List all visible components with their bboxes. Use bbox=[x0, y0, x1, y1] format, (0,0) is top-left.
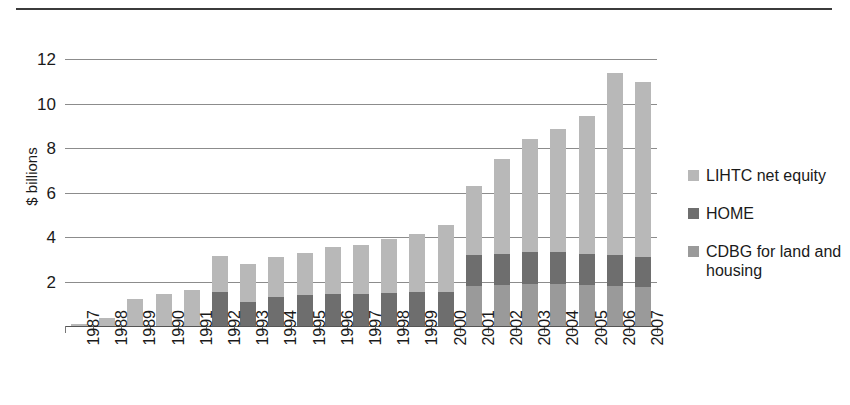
legend-label: LIHTC net equity bbox=[706, 166, 826, 185]
y-tick-label-12: 12 bbox=[16, 51, 56, 68]
top-divider-rule bbox=[16, 8, 832, 10]
bar-segment-lihtc-2005[interactable] bbox=[579, 116, 595, 254]
bar-segment-lihtc-1995[interactable] bbox=[297, 253, 313, 295]
bar-segment-lihtc-1996[interactable] bbox=[325, 247, 341, 294]
bar-segment-home-2001[interactable] bbox=[466, 255, 482, 286]
legend-swatch-icon bbox=[688, 246, 699, 257]
legend-label: CDBG for land and housing bbox=[706, 242, 844, 280]
bar-1990[interactable] bbox=[156, 46, 172, 326]
x-tick-label-1999: 1999 bbox=[424, 310, 440, 380]
chart-legend: LIHTC net equityHOMECDBG for land and ho… bbox=[688, 166, 848, 299]
x-tick-label-1990: 1990 bbox=[171, 310, 187, 380]
x-tick-label-1992: 1992 bbox=[227, 310, 243, 380]
x-tick-label-1993: 1993 bbox=[255, 310, 271, 380]
x-tick-label-1996: 1996 bbox=[340, 310, 356, 380]
legend-swatch-icon bbox=[688, 170, 699, 181]
bar-segment-lihtc-2007[interactable] bbox=[635, 82, 651, 258]
x-tick-label-2004: 2004 bbox=[565, 310, 581, 380]
x-tick-label-2003: 2003 bbox=[537, 310, 553, 380]
bar-1999[interactable] bbox=[409, 46, 425, 326]
legend-swatch-icon bbox=[688, 208, 699, 219]
bar-1997[interactable] bbox=[353, 46, 369, 326]
legend-label: HOME bbox=[706, 204, 754, 223]
x-tick-label-1994: 1994 bbox=[283, 310, 299, 380]
y-tick-label-10: 10 bbox=[16, 96, 56, 113]
bar-1992[interactable] bbox=[212, 46, 228, 326]
bar-segment-home-2007[interactable] bbox=[635, 257, 651, 287]
bar-segment-lihtc-1998[interactable] bbox=[381, 239, 397, 292]
legend-item-2[interactable]: CDBG for land and housing bbox=[688, 242, 848, 280]
x-tick-label-1989: 1989 bbox=[142, 310, 158, 380]
bar-2000[interactable] bbox=[438, 46, 454, 326]
bar-1988[interactable] bbox=[99, 46, 115, 326]
bar-segment-home-2006[interactable] bbox=[607, 255, 623, 286]
bar-segment-lihtc-2002[interactable] bbox=[494, 159, 510, 253]
x-tick-label-1997: 1997 bbox=[368, 310, 384, 380]
bar-segment-lihtc-2003[interactable] bbox=[522, 139, 538, 251]
legend-item-0[interactable]: LIHTC net equity bbox=[688, 166, 848, 185]
bar-1989[interactable] bbox=[127, 46, 143, 326]
y-axis-tick-labels: 24681012 bbox=[8, 46, 56, 326]
x-tick-label-2000: 2000 bbox=[453, 310, 469, 380]
bar-2004[interactable] bbox=[550, 46, 566, 326]
y-tick-label-2: 2 bbox=[16, 274, 56, 291]
bar-segment-lihtc-1992[interactable] bbox=[212, 256, 228, 292]
bar-1993[interactable] bbox=[240, 46, 256, 326]
bar-segment-home-2004[interactable] bbox=[550, 252, 566, 284]
bar-1996[interactable] bbox=[325, 46, 341, 326]
bar-segment-lihtc-2001[interactable] bbox=[466, 186, 482, 255]
bar-1994[interactable] bbox=[268, 46, 284, 326]
x-tick-label-1988: 1988 bbox=[114, 310, 130, 380]
y-tick-label-6: 6 bbox=[16, 185, 56, 202]
bar-segment-lihtc-1997[interactable] bbox=[353, 245, 369, 294]
x-tick-label-1991: 1991 bbox=[199, 310, 215, 380]
bar-1995[interactable] bbox=[297, 46, 313, 326]
bar-segment-home-2002[interactable] bbox=[494, 254, 510, 285]
bar-segment-home-2003[interactable] bbox=[522, 252, 538, 284]
x-tick-label-1987: 1987 bbox=[86, 310, 102, 380]
bar-segment-lihtc-1994[interactable] bbox=[268, 257, 284, 297]
y-tick-label-4: 4 bbox=[16, 229, 56, 246]
bar-segment-lihtc-2000[interactable] bbox=[438, 225, 454, 292]
x-tick-0 bbox=[65, 326, 66, 333]
bar-segment-lihtc-1993[interactable] bbox=[240, 264, 256, 302]
bar-segment-lihtc-2006[interactable] bbox=[607, 73, 623, 255]
bar-1987[interactable] bbox=[71, 46, 87, 326]
bar-2005[interactable] bbox=[579, 46, 595, 326]
bar-2001[interactable] bbox=[466, 46, 482, 326]
bar-segment-lihtc-1999[interactable] bbox=[409, 234, 425, 292]
chart-page: $ billions 24681012 19871988198919901991… bbox=[0, 0, 850, 405]
legend-item-1[interactable]: HOME bbox=[688, 204, 848, 223]
x-tick-label-1995: 1995 bbox=[312, 310, 328, 380]
bar-segment-lihtc-2004[interactable] bbox=[550, 129, 566, 251]
x-tick-label-1998: 1998 bbox=[396, 310, 412, 380]
bar-1991[interactable] bbox=[184, 46, 200, 326]
x-tick-label-2002: 2002 bbox=[509, 310, 525, 380]
bar-2002[interactable] bbox=[494, 46, 510, 326]
x-tick-label-2005: 2005 bbox=[594, 310, 610, 380]
bar-segment-home-2005[interactable] bbox=[579, 254, 595, 285]
x-tick-label-2001: 2001 bbox=[481, 310, 497, 380]
y-tick-label-8: 8 bbox=[16, 140, 56, 157]
bar-2007[interactable] bbox=[635, 46, 651, 326]
x-tick-label-2006: 2006 bbox=[622, 310, 638, 380]
x-tick-label-2007: 2007 bbox=[650, 310, 666, 380]
plot-area bbox=[65, 46, 657, 326]
bar-2006[interactable] bbox=[607, 46, 623, 326]
bar-1998[interactable] bbox=[381, 46, 397, 326]
bar-2003[interactable] bbox=[522, 46, 538, 326]
